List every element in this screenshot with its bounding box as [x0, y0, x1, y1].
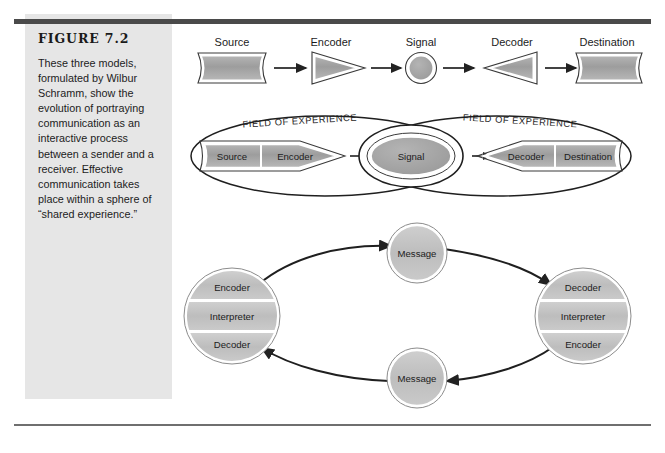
model3-arrow-right-to-bottom — [447, 347, 553, 381]
model3-circle-right-bands — [535, 271, 631, 361]
model1-shape-source-outline — [198, 53, 266, 83]
figure-page: FIGURE 7.2 These three models, formulate… — [0, 0, 665, 453]
model1-shape-source — [200, 55, 264, 81]
model3-label-right-band-3: Encoder — [565, 339, 602, 350]
model3-circle-right-ring — [535, 268, 631, 364]
model1-shape-encoder-outline — [312, 52, 365, 84]
model-3-circular: Message Message Encoder Interpreter Deco… — [184, 223, 631, 408]
model3-label-right-band-1: Decoder — [565, 282, 602, 293]
model3-circle-message-top — [390, 226, 445, 281]
model2-label-source: Source — [217, 151, 247, 162]
model1-heading-signal: Signal — [406, 36, 437, 48]
model3-circle-message-bottom — [390, 351, 445, 406]
model1-shape-encoder — [314, 55, 360, 81]
figure-label-rule — [38, 19, 158, 24]
model3-arrow-left-to-top — [259, 246, 391, 284]
model1-heading-destination: Destination — [579, 36, 634, 48]
model2-signal-outer-ellipse — [359, 125, 463, 187]
model2-shape-decoder-destination-outline — [477, 141, 622, 171]
model1-shape-decoder-outline — [484, 52, 537, 84]
model3-circle-message-bottom-ring — [387, 348, 447, 408]
bottom-divider-rule — [14, 424, 651, 426]
model2-shape-decoder-destination — [484, 144, 618, 168]
model-1-linear: Source Encoder Signal Decoder Destinatio… — [198, 36, 642, 84]
model2-signal-inner-ring — [367, 133, 455, 179]
model3-circle-left-bands — [184, 271, 280, 361]
model3-circle-left-ring — [184, 268, 280, 364]
model2-label-destination: Destination — [564, 151, 612, 162]
model2-label-field-left: FIELD OF EXPERIENCE — [242, 113, 357, 130]
model3-circle-message-top-ring — [387, 223, 447, 283]
model3-arrow-bottom-to-left — [262, 348, 389, 381]
model2-signal-fill — [371, 137, 451, 175]
model2-label-encoder: Encoder — [277, 151, 314, 162]
model3-label-message-top: Message — [398, 248, 437, 259]
model2-field-right-ellipse — [363, 116, 631, 196]
model1-shape-signal — [409, 56, 433, 80]
model2-label-decoder: Decoder — [508, 151, 545, 162]
model3-label-left-band-2: Interpreter — [210, 311, 255, 322]
model1-shape-destination — [578, 55, 640, 81]
model2-label-signal: Signal — [398, 151, 425, 162]
model-2-field-of-experience: FIELD OF EXPERIENCE FIELD OF EXPERIENCE … — [191, 113, 631, 196]
figure-caption: These three models, formulated by Wilbur… — [38, 56, 160, 222]
model3-arrow-top-to-right — [444, 249, 551, 285]
model2-shape-source-encoder-outline — [200, 141, 345, 171]
model1-shape-destination-outline — [576, 53, 642, 83]
model3-label-left-band-1: Encoder — [214, 282, 251, 293]
model1-shape-decoder — [488, 55, 534, 81]
model2-field-left-ellipse — [191, 116, 459, 196]
model2-label-field-right: FIELD OF EXPERIENCE — [463, 113, 578, 130]
model1-heading-source: Source — [215, 36, 250, 48]
figure-label: FIGURE 7.2 — [38, 31, 163, 46]
model3-label-right-band-2: Interpreter — [561, 311, 606, 322]
model1-heading-decoder: Decoder — [491, 36, 533, 48]
model1-shape-signal-ring — [406, 53, 437, 84]
model1-heading-encoder: Encoder — [311, 36, 352, 48]
model3-label-message-bottom: Message — [398, 373, 437, 384]
model2-shape-source-encoder — [204, 144, 338, 168]
model3-label-left-band-3: Decoder — [214, 339, 251, 350]
